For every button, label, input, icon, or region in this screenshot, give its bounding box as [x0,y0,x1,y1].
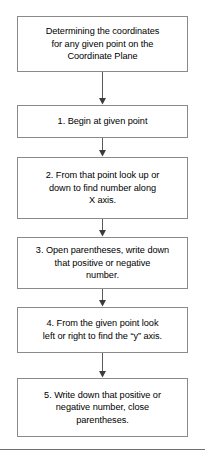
flowchart-diagram: Determining the coordinates for any give… [0,0,205,460]
arrow-step4-step5 [0,353,205,378]
node-step5-line-2: negative number, close [56,402,149,412]
flowchart-node-step1-text: 1. Begin at given point [23,115,182,128]
flowchart-node-step4-text: 4. From the given point look left or rig… [23,317,182,342]
flowchart-node-title-text: Determining the coordinates for any give… [23,25,182,63]
flowchart-node-step2-text: 2. From that point look up or down to fi… [23,169,182,207]
flowchart-node-step2: 2. From that point look up or down to fi… [17,157,188,219]
node-title-line-2: for any given point on the [52,39,154,49]
arrow-step2-step3 [0,219,205,237]
flowchart-node-step5: 5. Write down that positive or negative … [17,378,188,437]
bottom-divider [0,449,205,450]
flowchart-node-step3: 3. Open parentheses, write down that pos… [17,237,188,289]
flowchart-node-step5-text: 5. Write down that positive or negative … [23,389,182,427]
node-step3-line-2: that positive or negative [55,258,151,268]
node-title-line-3: Coordinate Plane [67,51,137,61]
arrow-step1-step2 [0,138,205,157]
node-step4-line-1: 4. From the given point look [47,318,159,328]
arrow-step3-step4 [0,289,205,307]
flowchart-node-step3-text: 3. Open parentheses, write down that pos… [23,244,182,282]
node-step3-line-3: number. [86,270,119,280]
node-step3-line-1: 3. Open parentheses, write down [36,245,169,255]
node-title-line-1: Determining the coordinates [46,26,160,36]
node-step2-line-3: X axis. [89,195,116,205]
node-step5-line-1: 5. Write down that positive or [44,390,161,400]
node-step2-line-2: down to find number along [49,183,156,193]
flowchart-node-title: Determining the coordinates for any give… [17,16,188,72]
flowchart-node-step1: 1. Begin at given point [17,105,188,138]
node-step1-line-1: 1. Begin at given point [58,116,148,126]
flowchart-node-step4: 4. From the given point look left or rig… [17,307,188,353]
arrow-title-step1 [0,72,205,105]
node-step5-line-3: parentheses. [76,415,129,425]
node-step2-line-1: 2. From that point look up or [46,170,159,180]
node-step4-line-2: left or right to find the “y” axis. [43,331,162,341]
